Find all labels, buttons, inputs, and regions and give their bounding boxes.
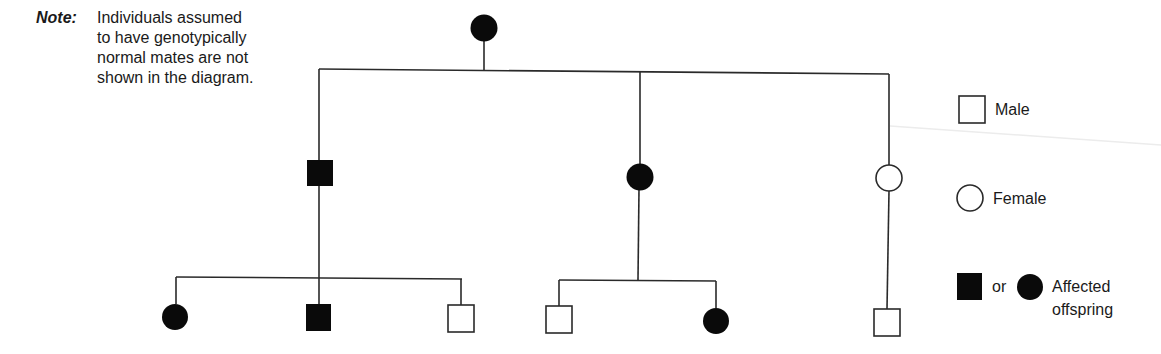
pedigree-lines <box>176 41 889 309</box>
individual-II-3-unaffected-female-icon <box>876 165 902 191</box>
legend-male-square-icon <box>959 96 985 123</box>
legend-affected-square-icon <box>957 273 982 300</box>
individual-III-4-unaffected-male-icon <box>546 306 572 333</box>
sibship-line-gen2 <box>319 69 889 74</box>
legend-affected-label-line2: offspring <box>1052 300 1113 320</box>
legend-or-label: or <box>992 277 1006 297</box>
individual-II-1-affected-male-icon <box>307 160 333 186</box>
individual-I-1-affected-female-icon <box>471 15 498 42</box>
individual-III-6-unaffected-male-icon <box>874 309 900 336</box>
individual-III-1-affected-female-icon <box>162 304 188 330</box>
note-line-1: Individuals assumed <box>97 8 254 28</box>
note-line-2: to have genotypically <box>97 28 254 48</box>
individual-III-5-affected-female-icon <box>703 308 729 334</box>
individual-III-3-unaffected-male-icon <box>448 305 474 332</box>
descent-line-II-2 <box>638 189 639 280</box>
legend-affected-circle-icon <box>1017 274 1043 300</box>
line-to-III-6 <box>887 191 889 309</box>
legend-male-label: Male <box>995 100 1030 120</box>
sibship-line-II-2 <box>559 280 716 281</box>
individual-II-2-affected-female-icon <box>627 164 654 191</box>
legend-female-label: Female <box>993 189 1046 209</box>
note-line-3: normal mates are not <box>97 48 254 68</box>
scan-artifact-line <box>890 126 1161 145</box>
note-line-4: shown in the diagram. <box>97 68 254 88</box>
note-label: Note: <box>36 8 77 28</box>
legend-female-circle-icon <box>957 185 983 211</box>
individual-III-2-affected-male-icon <box>306 304 331 331</box>
note-text: Individuals assumed to have genotypicall… <box>97 8 254 88</box>
legend-affected-label-line1: Affected <box>1052 277 1110 297</box>
